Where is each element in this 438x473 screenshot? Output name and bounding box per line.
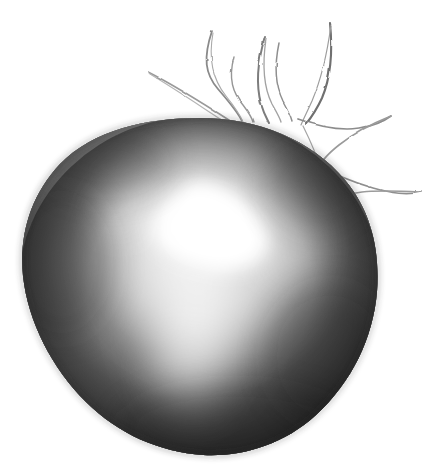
fruit-drawing: [0, 0, 438, 473]
artwork-canvas: Graphite drawing of a round fruit: [0, 0, 438, 473]
